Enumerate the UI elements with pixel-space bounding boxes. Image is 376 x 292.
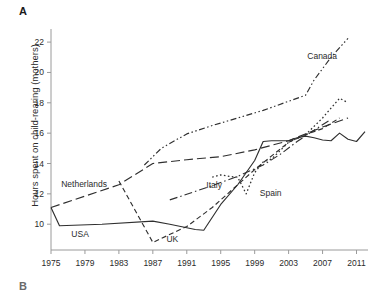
x-tick-label: 2011	[347, 258, 366, 268]
series-label-canada: Canada	[307, 51, 337, 61]
x-tick-label: 1983	[109, 258, 128, 268]
series-line-netherlands	[51, 118, 348, 208]
x-axis-ticks: 1975197919831987199119951999200320072011	[42, 250, 366, 268]
series-lines	[51, 38, 365, 242]
y-axis-ticks: 10121416182022	[35, 37, 51, 229]
series-label-spain: Spain	[260, 188, 282, 198]
y-tick-label: 22	[35, 37, 45, 47]
y-tick-label: 14	[35, 159, 45, 169]
x-tick-label: 1995	[211, 258, 230, 268]
series-label-uk: UK	[166, 234, 178, 244]
x-tick-label: 2003	[279, 258, 298, 268]
x-tick-label: 2007	[313, 258, 332, 268]
y-tick-label: 18	[35, 98, 45, 108]
series-line-spain	[212, 98, 348, 194]
series-annotations: USANetherlandsUKItalySpainCanada	[61, 51, 337, 244]
x-tick-label: 1975	[42, 258, 61, 268]
y-tick-label: 12	[35, 189, 45, 199]
series-label-netherlands: Netherlands	[61, 179, 107, 189]
x-tick-label: 1999	[245, 258, 264, 268]
x-tick-label: 1987	[143, 258, 162, 268]
y-tick-label: 20	[35, 67, 45, 77]
series-label-usa: USA	[71, 229, 89, 239]
series-line-italy	[170, 120, 331, 200]
x-tick-label: 1979	[75, 258, 94, 268]
series-label-italy: Italy	[206, 180, 222, 190]
y-tick-label: 10	[35, 219, 45, 229]
x-tick-label: 1991	[177, 258, 196, 268]
y-tick-label: 16	[35, 128, 45, 138]
